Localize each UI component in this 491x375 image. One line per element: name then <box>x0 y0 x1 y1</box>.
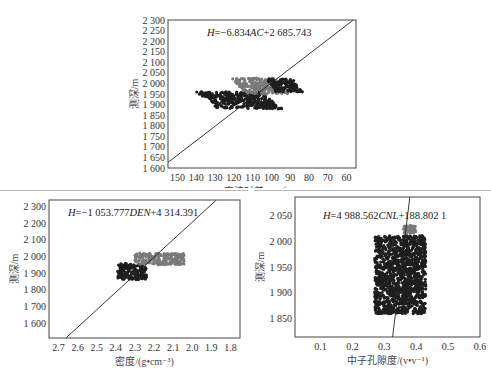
x-tick-label: 0.3 <box>378 341 391 352</box>
y-tick-label: 1 750 <box>143 131 166 142</box>
x-tick-label: 0.2 <box>346 341 359 352</box>
regression-equation: H=−1 053.777DEN+4 314.391 <box>67 207 198 218</box>
y-tick-label: 1 900 <box>270 287 293 298</box>
x-tick-label: 2.3 <box>129 342 142 353</box>
x-tick-label: 2.5 <box>91 342 104 353</box>
y-axis-label: 测深/m <box>8 254 20 285</box>
x-tick-label: 0.5 <box>442 341 455 352</box>
x-tick-label: 140 <box>189 172 204 183</box>
x-tick-label: 0.1 <box>314 341 327 352</box>
y-tick-label: 2 200 <box>143 36 166 47</box>
chart-ac-vs-depth: 1 6001 6501 7001 7501 8001 8501 9001 950… <box>0 0 491 188</box>
y-tick-label: 2 000 <box>143 78 166 89</box>
x-tick-label: 2.2 <box>148 342 161 353</box>
y-tick-label: 2 300 <box>24 201 47 212</box>
regression-equation: H=−6.834AC+2 685.743 <box>206 27 311 38</box>
y-tick-label: 1 800 <box>24 284 47 295</box>
y-tick-label: 2 250 <box>143 25 166 36</box>
x-tick-label: 2.1 <box>167 342 180 353</box>
scatter-plot-den: 1 6001 7001 8001 9002 0002 1002 2002 300… <box>0 188 250 375</box>
y-tick-label: 2 100 <box>24 234 47 245</box>
x-tick-label: 150 <box>170 172 185 183</box>
y-tick-label: 2 000 <box>270 236 293 247</box>
y-tick-label: 1 700 <box>143 141 166 152</box>
regression-equation: H=4 988.562CNL+188.802 1 <box>322 210 446 221</box>
y-tick-label: 2 050 <box>143 67 166 78</box>
regression-line <box>66 200 216 338</box>
scatter-plot-ac: 1 6001 6501 7001 7501 8001 8501 9001 950… <box>0 0 491 188</box>
x-tick-label: 120 <box>226 172 241 183</box>
x-axis-label: 密度/(g•cm⁻³) <box>115 355 173 368</box>
y-tick-label: 1 600 <box>24 318 47 329</box>
x-tick-label: 1.8 <box>224 342 237 353</box>
x-tick-label: 0.6 <box>474 341 487 352</box>
x-tick-label: 2.7 <box>52 342 65 353</box>
y-tick-label: 1 950 <box>143 89 166 100</box>
x-tick-label: 130 <box>208 172 223 183</box>
y-tick-label: 2 300 <box>143 15 166 26</box>
x-tick-label: 90 <box>285 172 295 183</box>
y-tick-label: 1 900 <box>24 268 47 279</box>
y-tick-label: 1 900 <box>143 99 166 110</box>
y-tick-label: 2 000 <box>24 251 47 262</box>
x-tick-label: 2.6 <box>71 342 84 353</box>
y-tick-label: 2 050 <box>270 210 293 221</box>
data-points <box>161 20 354 168</box>
x-tick-label: 1.9 <box>205 342 218 353</box>
x-tick-label: 100 <box>264 172 279 183</box>
x-tick-label: 0.4 <box>410 341 423 352</box>
x-tick-label: 70 <box>323 172 333 183</box>
regression-line <box>161 20 354 168</box>
x-tick-label: 60 <box>342 172 352 183</box>
y-tick-label: 1 800 <box>143 120 166 131</box>
x-tick-label: 2.4 <box>110 342 123 353</box>
data-points <box>66 200 216 338</box>
y-tick-label: 1 700 <box>24 301 47 312</box>
chart-cnl-vs-depth: 1 8501 9001 9502 0002 0500.10.20.30.40.5… <box>250 188 491 375</box>
x-tick-label: 80 <box>304 172 314 183</box>
x-tick-label: 2.0 <box>186 342 199 353</box>
y-axis-label: 测深/m <box>254 252 266 283</box>
y-tick-label: 1 850 <box>143 110 166 121</box>
x-axis-label: 中子孔隙度/(v•v⁻¹) <box>347 354 428 367</box>
y-tick-label: 2 200 <box>24 218 47 229</box>
chart-den-vs-depth: 1 6001 7001 8001 9002 0002 1002 2002 300… <box>0 188 250 375</box>
y-axis-label: 测深/m <box>128 79 140 110</box>
x-tick-label: 110 <box>245 172 260 183</box>
y-tick-label: 1 950 <box>270 262 293 273</box>
y-tick-label: 1 650 <box>143 152 166 163</box>
scatter-plot-cnl: 1 8501 9001 9502 0002 0500.10.20.30.40.5… <box>250 188 491 375</box>
y-tick-label: 2 150 <box>143 46 166 57</box>
y-tick-label: 2 100 <box>143 57 166 68</box>
y-tick-label: 1 850 <box>270 313 293 324</box>
y-tick-label: 1 600 <box>143 163 166 174</box>
